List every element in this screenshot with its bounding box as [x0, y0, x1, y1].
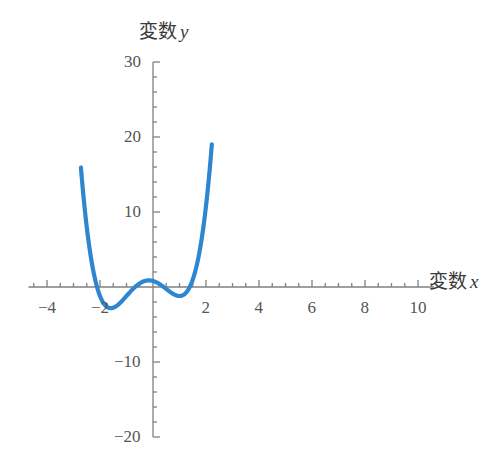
- y-axis-title: 変数y: [139, 22, 188, 41]
- plot-canvas: [0, 0, 495, 472]
- y-axis-title-variable: y: [177, 21, 188, 42]
- x-tick-label: −4: [38, 299, 56, 316]
- x-tick-label: 8: [361, 299, 370, 316]
- y-tick-label: 30: [124, 53, 141, 70]
- x-tick-label: 4: [255, 299, 264, 316]
- y-tick-label: −10: [114, 353, 141, 370]
- y-tick-label: 20: [124, 128, 141, 145]
- chart-figure: −4−2246810−20−10102030 変数y 変数x: [0, 0, 495, 472]
- x-axis-title-variable: x: [467, 271, 478, 292]
- x-tick-label: 6: [308, 299, 317, 316]
- x-tick-label: 2: [202, 299, 211, 316]
- y-axis-title-cjk: 変数: [139, 21, 177, 42]
- x-tick-label: −2: [91, 299, 109, 316]
- y-tick-label: 10: [124, 203, 141, 220]
- x-axis-title: 変数x: [429, 272, 478, 291]
- y-tick-label: −20: [114, 428, 141, 445]
- x-axis-title-cjk: 変数: [429, 271, 467, 292]
- x-tick-label: 10: [410, 299, 427, 316]
